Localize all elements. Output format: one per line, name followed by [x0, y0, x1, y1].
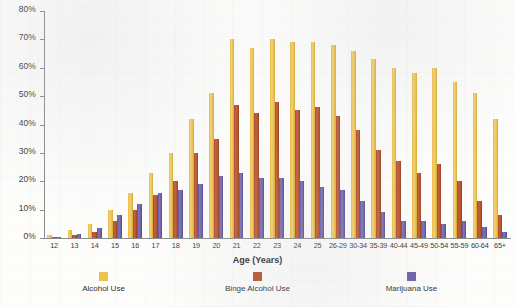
bar-marijuana [239, 173, 244, 238]
bar-marijuana [56, 237, 61, 238]
bar-marijuana [482, 227, 487, 238]
x-axis-line [44, 238, 511, 239]
bar-group [247, 11, 267, 238]
x-axis-labels: 121314151617181920212223242526-2930-3435… [44, 241, 510, 250]
y-axis-tick-label: 50% [19, 89, 36, 99]
bar-groups [44, 11, 510, 238]
bar-group [409, 11, 429, 238]
bar-marijuana [158, 193, 163, 238]
bar-group [85, 11, 105, 238]
x-axis-label: 22 [247, 241, 267, 250]
bar-group [206, 11, 226, 238]
y-axis-tick-label: 80% [19, 4, 36, 14]
legend-item-alcohol[interactable]: Alcohol Use [49, 272, 159, 293]
bar-marijuana [462, 221, 467, 238]
bar-marijuana [340, 190, 345, 238]
x-axis-label: 60-64 [470, 241, 490, 250]
bar-marijuana [360, 201, 365, 238]
bar-marijuana [117, 215, 122, 238]
bar-group [267, 11, 287, 238]
y-axis-tick-label: 10% [19, 203, 36, 213]
bar-marijuana [219, 176, 224, 238]
legend-swatch-marijuana [407, 272, 416, 281]
bar-group [429, 11, 449, 238]
legend-label-alcohol: Alcohol Use [82, 284, 125, 293]
y-axis-tick-label: 40% [19, 118, 36, 128]
bar-group [449, 11, 469, 238]
y-axis-tick-label: 70% [19, 32, 36, 42]
x-axis-label: 14 [85, 241, 105, 250]
x-axis-label: 13 [64, 241, 84, 250]
bar-marijuana [502, 232, 507, 238]
bar-marijuana [421, 221, 426, 238]
bar-marijuana [401, 221, 406, 238]
bar-group [64, 11, 84, 238]
bar-marijuana [77, 234, 82, 238]
x-axis-label: 50-54 [429, 241, 449, 250]
bar-group [470, 11, 490, 238]
bar-group [145, 11, 165, 238]
bar-group [389, 11, 409, 238]
x-axis-label: 17 [145, 241, 165, 250]
x-axis-label: 40-44 [389, 241, 409, 250]
x-axis-label: 18 [166, 241, 186, 250]
bar-marijuana [198, 184, 203, 238]
x-axis-label: 19 [186, 241, 206, 250]
bar-group [166, 11, 186, 238]
bar-group [348, 11, 368, 238]
x-axis-label: 20 [206, 241, 226, 250]
x-axis-label: 15 [105, 241, 125, 250]
bar-group [125, 11, 145, 238]
bar-group [44, 11, 64, 238]
y-axis-tick-label: 60% [19, 61, 36, 71]
bar-group [328, 11, 348, 238]
bar-group [226, 11, 246, 238]
legend-label-binge: Binge Alcohol Use [225, 284, 290, 293]
bar-group [490, 11, 510, 238]
x-axis-label: 16 [125, 241, 145, 250]
x-axis-label: 23 [267, 241, 287, 250]
legend-item-binge[interactable]: Binge Alcohol Use [203, 272, 313, 293]
x-axis-label: 21 [226, 241, 246, 250]
legend-swatch-binge [253, 272, 262, 281]
x-axis-label: 65+ [490, 241, 510, 250]
bar-marijuana [279, 178, 284, 238]
bar-marijuana [300, 181, 305, 238]
bar-chart: 80%70%60%50%40%30%20%10%0% 1213141516171… [0, 0, 515, 307]
x-axis-label: 12 [44, 241, 64, 250]
bar-marijuana [178, 190, 183, 238]
bar-group [307, 11, 327, 238]
bar-marijuana [441, 224, 446, 238]
y-axis-tick-label: 30% [19, 146, 36, 156]
bar-group [287, 11, 307, 238]
legend-item-marijuana[interactable]: Marijuana Use [357, 272, 467, 293]
y-axis-tick-label: 0% [24, 231, 37, 241]
x-axis-label: 35-39 [368, 241, 388, 250]
bar-marijuana [97, 228, 102, 238]
x-axis-label: 26-29 [328, 241, 348, 250]
chart-legend: Alcohol UseBinge Alcohol UseMarijuana Us… [0, 272, 515, 293]
legend-swatch-alcohol [99, 272, 108, 281]
x-axis-label: 45-49 [409, 241, 429, 250]
bar-marijuana [259, 178, 264, 238]
bar-group [186, 11, 206, 238]
bar-marijuana [381, 212, 386, 238]
legend-label-marijuana: Marijuana Use [386, 284, 438, 293]
x-axis-label: 55-59 [449, 241, 469, 250]
bar-marijuana [320, 187, 325, 238]
bar-group [368, 11, 388, 238]
y-axis-tick-label: 20% [19, 174, 36, 184]
x-axis-title: Age (Years) [0, 255, 515, 265]
x-axis-label: 30-34 [348, 241, 368, 250]
x-axis-label: 24 [287, 241, 307, 250]
x-axis-label: 25 [307, 241, 327, 250]
bar-group [105, 11, 125, 238]
bar-marijuana [137, 204, 142, 238]
